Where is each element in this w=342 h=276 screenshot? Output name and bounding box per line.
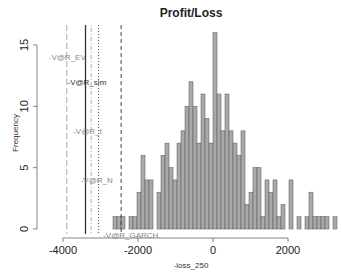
chart-title: Profit/Loss bbox=[160, 6, 223, 20]
histogram-bar bbox=[277, 217, 281, 229]
x-tick-label: -4000 bbox=[49, 244, 77, 256]
chart-canvas: Profit/Loss -V@R_EV-V@R_sim-V@R_t-V@R_N-… bbox=[0, 0, 342, 276]
histogram-bar bbox=[305, 217, 309, 229]
y-axis-label: Frequency bbox=[11, 114, 20, 152]
histogram-bar bbox=[317, 217, 321, 229]
x-axis: -4000-200002000 bbox=[49, 238, 300, 256]
histogram-bar bbox=[185, 106, 189, 229]
histogram-bar bbox=[309, 192, 313, 229]
histogram-bar bbox=[197, 143, 201, 229]
histogram-bar bbox=[289, 180, 293, 229]
histogram-bar bbox=[229, 131, 233, 229]
histogram-bar bbox=[117, 217, 121, 229]
histogram-bar bbox=[273, 180, 277, 229]
histogram-bar bbox=[165, 143, 169, 229]
histogram-bar bbox=[181, 131, 185, 229]
histogram-bar bbox=[249, 192, 253, 229]
histogram-bar bbox=[261, 217, 265, 229]
histogram-bar bbox=[189, 82, 193, 229]
histogram-bar bbox=[313, 217, 317, 229]
histogram-bar bbox=[221, 131, 225, 229]
histogram-bar bbox=[201, 94, 205, 229]
histogram-bar bbox=[133, 217, 137, 229]
histogram-bar bbox=[193, 106, 197, 229]
histogram-bar bbox=[241, 131, 245, 229]
var-line-label: -V@R_t bbox=[73, 127, 102, 136]
histogram-bar bbox=[169, 168, 173, 229]
histogram-bar bbox=[257, 168, 261, 229]
var-line-label: -V@R_N bbox=[81, 176, 113, 185]
histogram-bar bbox=[141, 155, 145, 229]
histogram-bars bbox=[113, 33, 337, 229]
histogram-bar bbox=[253, 168, 257, 229]
histogram-bar bbox=[321, 217, 325, 229]
histogram-bar bbox=[325, 217, 329, 229]
histogram-bar bbox=[281, 204, 285, 229]
histogram-bar bbox=[129, 217, 133, 229]
histogram-bar bbox=[213, 33, 217, 229]
x-axis-label: -loss_250 bbox=[174, 261, 209, 270]
var-line-label: -V@R_GARCH bbox=[103, 231, 158, 240]
histogram-bar bbox=[245, 204, 249, 229]
var-line-label: -V@R_sim bbox=[68, 78, 107, 87]
histogram-bar bbox=[205, 119, 209, 229]
histogram-bar bbox=[237, 155, 241, 229]
histogram-bar bbox=[173, 180, 177, 229]
histogram-bar bbox=[149, 180, 153, 229]
histogram-bar bbox=[333, 217, 337, 229]
y-tick-label: 10 bbox=[18, 100, 30, 112]
histogram-chart: Profit/Loss -V@R_EV-V@R_sim-V@R_t-V@R_N-… bbox=[0, 0, 342, 276]
histogram-bar bbox=[113, 217, 117, 229]
histogram-bar bbox=[145, 180, 149, 229]
histogram-bar bbox=[177, 143, 181, 229]
y-tick-label: 15 bbox=[18, 39, 30, 51]
y-axis: 051015 bbox=[18, 39, 37, 232]
histogram-bar bbox=[297, 217, 301, 229]
histogram-bar bbox=[269, 192, 273, 229]
histogram-bar bbox=[157, 192, 161, 229]
histogram-bar bbox=[217, 94, 221, 229]
x-tick-label: -2000 bbox=[124, 244, 152, 256]
y-tick-label: 0 bbox=[18, 226, 30, 232]
y-tick-label: 5 bbox=[18, 165, 30, 171]
histogram-bar bbox=[209, 143, 213, 229]
histogram-bar bbox=[225, 94, 229, 229]
x-tick-label: 2000 bbox=[276, 244, 300, 256]
histogram-bar bbox=[265, 180, 269, 229]
histogram-bar bbox=[137, 192, 141, 229]
x-tick-label: 0 bbox=[210, 244, 216, 256]
histogram-bar bbox=[233, 143, 237, 229]
histogram-bar bbox=[161, 155, 165, 229]
var-line-label: -V@R_EV bbox=[49, 53, 87, 62]
